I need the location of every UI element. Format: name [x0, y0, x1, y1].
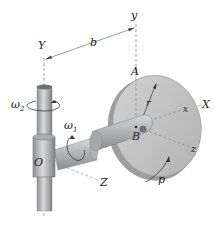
label-b: b	[90, 36, 97, 49]
rotating-disk-diagram: Y y b A r x X z Z B O ω2 ω1	[0, 0, 215, 232]
label-Y: Y	[38, 39, 47, 52]
label-y: y	[130, 9, 138, 22]
label-Z: Z	[99, 176, 108, 189]
label-x: x	[183, 104, 188, 114]
arm-collar	[90, 131, 102, 151]
label-X: X	[201, 98, 211, 111]
Z-axis-line	[62, 166, 98, 180]
vertical-shaft-top	[37, 85, 52, 90]
label-B: B	[131, 130, 140, 143]
label-omega1: ω1	[64, 119, 77, 134]
point-B	[135, 126, 137, 128]
label-A: A	[130, 65, 139, 78]
b-arrow-left-icon	[45, 56, 52, 60]
label-omega2: ω2	[11, 98, 25, 113]
label-p: p	[158, 173, 165, 186]
b-arrow-right-icon	[128, 28, 135, 32]
pin-icon	[140, 126, 146, 132]
label-z: z	[190, 144, 196, 154]
collar-top	[33, 134, 55, 140]
label-O: O	[34, 156, 43, 169]
